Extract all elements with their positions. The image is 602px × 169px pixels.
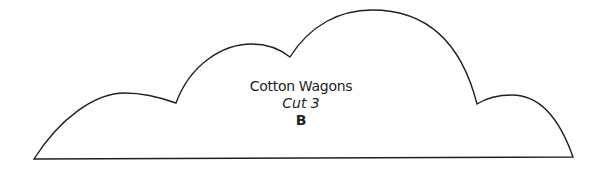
cloud-label: Cotton Wagons Cut 3 B — [0, 78, 602, 129]
title-label: Cotton Wagons — [0, 78, 602, 95]
cut-label: Cut 3 — [0, 95, 602, 112]
letter-label: B — [0, 112, 602, 129]
